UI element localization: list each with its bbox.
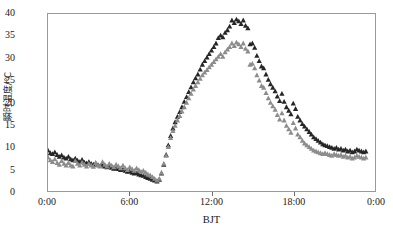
y-tick-label: 40 [0, 8, 15, 18]
data-point [291, 101, 296, 106]
data-point [268, 100, 273, 105]
data-point [157, 176, 162, 181]
data-point [293, 106, 298, 111]
data-point [213, 41, 218, 46]
data-point [282, 99, 287, 104]
data-point [241, 41, 246, 46]
y-tick-label: 0 [0, 187, 15, 197]
data-point [198, 67, 203, 72]
data-point [277, 117, 282, 122]
x-tick-label: 12:00 [189, 196, 235, 207]
data-point [293, 126, 298, 131]
x-tick-label: 6:00 [106, 196, 152, 207]
data-point [254, 72, 259, 77]
data-point [282, 118, 287, 123]
data-point [266, 95, 271, 100]
data-point [52, 157, 57, 162]
x-tick-label: 18:00 [271, 196, 317, 207]
y-tick-label: 10 [0, 142, 15, 152]
y-tick-label: 20 [0, 98, 15, 108]
y-tick-label: 5 [0, 165, 15, 175]
y-tick-label: 25 [0, 75, 15, 85]
data-point [295, 114, 300, 119]
data-point [275, 94, 280, 99]
temperature-diurnal-chart: 瞬时温度/℃ 40 35 30 25 20 15 10 5 0 0:00 6:0… [0, 0, 393, 241]
data-point [275, 112, 280, 117]
data-point [161, 161, 166, 166]
data-point [263, 72, 268, 77]
y-tick-label: 15 [0, 120, 15, 130]
data-point [279, 91, 284, 96]
data-point [195, 72, 200, 77]
data-point [227, 24, 232, 29]
data-point [254, 53, 259, 58]
data-point [268, 81, 273, 86]
data-point [252, 65, 257, 70]
x-axis-title: BJT [47, 214, 376, 225]
data-point [257, 58, 262, 63]
data-point [284, 104, 289, 109]
data-point [277, 98, 282, 103]
data-point [164, 153, 169, 158]
data-point [266, 77, 271, 82]
data-point [284, 123, 289, 128]
data-point [241, 18, 246, 23]
data-point [257, 78, 262, 83]
scatter-markers-layer [48, 14, 375, 191]
plot-area [47, 13, 376, 192]
y-tick-label: 35 [0, 30, 15, 40]
data-point [159, 170, 164, 175]
y-tick-label: 30 [0, 53, 15, 63]
data-point [263, 90, 268, 95]
series-series-dark [48, 17, 368, 184]
data-point [279, 111, 284, 116]
data-point [291, 120, 296, 125]
x-tick-label: 0:00 [353, 196, 393, 207]
series-series-gray [48, 40, 368, 183]
data-point [252, 45, 257, 50]
x-tick-label: 0:00 [24, 196, 70, 207]
